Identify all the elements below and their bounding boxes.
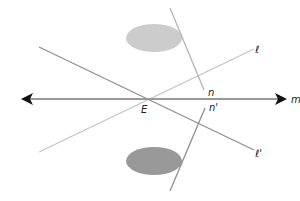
label-E: E: [141, 104, 148, 115]
lower-ellipse-shape: [126, 147, 182, 175]
label-l-prime: ℓ': [255, 148, 262, 159]
diagram-canvas: m E ℓ ℓ' n n': [0, 0, 300, 201]
label-l: ℓ: [255, 44, 259, 55]
line-n-prime: [170, 108, 205, 191]
line-n: [170, 8, 204, 90]
label-n-prime: n': [209, 102, 218, 113]
label-m: m: [291, 94, 300, 105]
upper-ellipse-shape: [126, 24, 182, 52]
label-n: n: [208, 87, 214, 98]
line-l: [39, 49, 254, 152]
